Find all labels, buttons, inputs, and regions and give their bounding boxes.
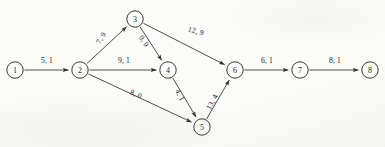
node-8[interactable]: 8 bbox=[362, 62, 378, 78]
node-label-7: 7 bbox=[298, 66, 302, 75]
edge-label-7-8: 8, 1 bbox=[329, 56, 341, 65]
edge-label-3-6: 12, 9 bbox=[187, 24, 205, 37]
node-1[interactable]: 1 bbox=[7, 62, 23, 78]
node-label-3: 3 bbox=[133, 15, 137, 24]
edge-label-2-4: 9, 1 bbox=[118, 56, 130, 65]
node-6[interactable]: 6 bbox=[227, 62, 243, 78]
node-label-4: 4 bbox=[166, 66, 170, 75]
edge-label-3-4: 0, 0 bbox=[137, 33, 151, 48]
edge-3-to-6 bbox=[143, 23, 224, 64]
node-7[interactable]: 7 bbox=[292, 62, 308, 78]
edge-label-2-3: 7, 9 bbox=[94, 30, 108, 45]
edge-label-5-6: 13, 4 bbox=[204, 93, 220, 112]
edge-label-4-5: 4, 1 bbox=[173, 88, 187, 103]
node-label-1: 1 bbox=[13, 66, 17, 75]
node-5[interactable]: 5 bbox=[194, 119, 210, 135]
network-diagram-canvas: 12345678 5, 17, 99, 18, 00, 012, 94, 113… bbox=[0, 0, 385, 147]
node-label-5: 5 bbox=[200, 123, 204, 132]
network-graph: 12345678 5, 17, 99, 18, 00, 012, 94, 113… bbox=[0, 0, 385, 147]
node-label-6: 6 bbox=[233, 66, 237, 75]
edge-label-6-7: 6, 1 bbox=[261, 56, 273, 65]
node-4[interactable]: 4 bbox=[160, 62, 176, 78]
node-3[interactable]: 3 bbox=[127, 11, 143, 27]
node-label-2: 2 bbox=[78, 66, 82, 75]
node-2[interactable]: 2 bbox=[72, 62, 88, 78]
node-label-8: 8 bbox=[368, 66, 372, 75]
edge-label-1-2: 5, 1 bbox=[41, 56, 53, 65]
